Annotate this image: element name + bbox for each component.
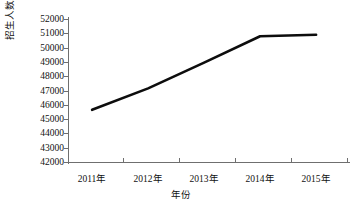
x-axis-title: 年份 (0, 187, 362, 201)
y-axis-tick-mark (64, 133, 68, 134)
y-axis-tick-label: 49000 (18, 57, 64, 67)
y-axis-tick-mark (64, 48, 68, 49)
y-axis-tick-mark (64, 148, 68, 149)
y-axis-tick-label: 47000 (18, 86, 64, 96)
x-axis-tick-mark (347, 158, 348, 162)
x-axis-tick-label: 2012年 (118, 171, 178, 185)
x-axis-tick-mark (291, 158, 292, 162)
y-axis-tick-label: 42000 (18, 157, 64, 167)
plot-area (68, 19, 348, 162)
x-axis-line (67, 162, 350, 163)
y-axis-tick-mark (64, 76, 68, 77)
y-axis-tick-label: 46000 (18, 100, 64, 110)
x-axis-tick-label: 2015年 (286, 171, 346, 185)
y-axis-tick-mark (64, 105, 68, 106)
y-axis-tick-label: 50000 (18, 43, 64, 53)
x-axis-tick-mark (123, 158, 124, 162)
y-axis-tick-mark (64, 162, 68, 163)
y-axis-tick-mark (64, 62, 68, 63)
x-axis-tick-label: 2014年 (230, 171, 290, 185)
y-axis-tick-label: 44000 (18, 128, 64, 138)
x-axis-tick-label: 2013年 (174, 171, 234, 185)
y-axis-tick-mark (64, 19, 68, 20)
x-axis-tick-mark (235, 158, 236, 162)
y-axis-title: 招生人数/人 (2, 0, 18, 64)
y-axis-tick-label: 52000 (18, 14, 64, 24)
y-axis-tick-mark (64, 91, 68, 92)
y-axis-tick-label: 48000 (18, 71, 64, 81)
y-axis-tick-label: 43000 (18, 143, 64, 153)
x-axis-tick-label: 2011年 (62, 171, 122, 185)
line-chart: 招生人数/人 520005100050000490004800047000460… (0, 0, 362, 216)
y-axis-tick-mark (64, 33, 68, 34)
y-axis-tick-label: 45000 (18, 114, 64, 124)
y-axis-tick-mark (64, 119, 68, 120)
y-axis-tick-label: 51000 (18, 28, 64, 38)
x-axis-tick-mark (179, 158, 180, 162)
y-axis-tick-labels: 5200051000500004900048000470004600045000… (18, 0, 64, 216)
